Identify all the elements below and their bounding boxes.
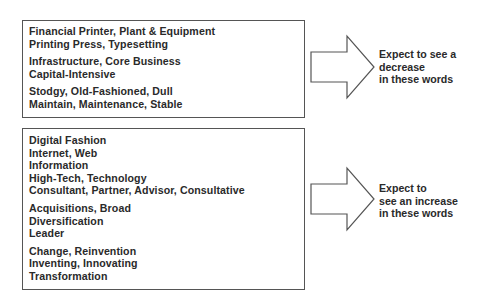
word-line: Consultant, Partner, Advisor, Consultati…	[29, 184, 304, 197]
word-group: Financial Printer, Plant & Equipment Pri…	[29, 25, 304, 50]
word-line: Infrastructure, Core Business	[29, 55, 304, 68]
word-line: Printing Press, Typesetting	[29, 38, 304, 51]
label-line: Expect to see a	[379, 48, 456, 61]
word-group: Change, Reinvention Inventing, Innovatin…	[29, 245, 304, 283]
label-line: see an increase	[379, 195, 458, 208]
label-line: in these words	[379, 73, 456, 86]
word-group: Digital Fashion Internet, Web Informatio…	[29, 134, 304, 197]
word-line: Acquisitions, Broad	[29, 202, 304, 215]
word-group: Acquisitions, Broad Diversification Lead…	[29, 202, 304, 240]
word-line: Digital Fashion	[29, 134, 304, 147]
word-line: Information	[29, 159, 304, 172]
word-group: Infrastructure, Core Business Capital-In…	[29, 55, 304, 80]
word-line: Transformation	[29, 270, 304, 283]
word-line: Diversification	[29, 215, 304, 228]
label-line: Expect to	[379, 182, 458, 195]
label-line: in these words	[379, 207, 458, 220]
increasing-words-box: Digital Fashion Internet, Web Informatio…	[22, 128, 305, 290]
decreasing-words-box: Financial Printer, Plant & Equipment Pri…	[22, 20, 305, 118]
word-line: Maintain, Maintenance, Stable	[29, 98, 304, 111]
word-line: Capital-Intensive	[29, 68, 304, 81]
word-line: Leader	[29, 227, 304, 240]
word-line: Change, Reinvention	[29, 245, 304, 258]
word-group: Stodgy, Old-Fashioned, Dull Maintain, Ma…	[29, 85, 304, 110]
word-line: Internet, Web	[29, 147, 304, 160]
right-arrow-icon	[309, 166, 377, 234]
word-line: Stodgy, Old-Fashioned, Dull	[29, 85, 304, 98]
word-line: High-Tech, Technology	[29, 172, 304, 185]
word-line: Financial Printer, Plant & Equipment	[29, 25, 304, 38]
word-line: Inventing, Innovating	[29, 257, 304, 270]
increase-label: Expect to see an increase in these words	[379, 182, 458, 220]
label-line: decrease	[379, 61, 456, 74]
decrease-label: Expect to see a decrease in these words	[379, 48, 456, 86]
right-arrow-icon	[309, 34, 377, 102]
